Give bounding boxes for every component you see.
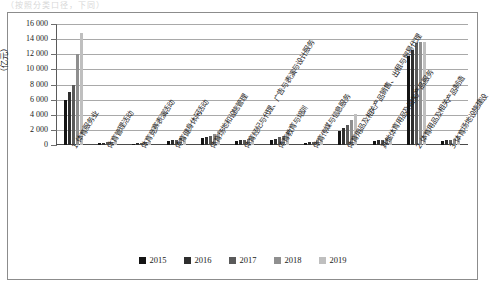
y-axis-tick: [51, 69, 57, 70]
y-axis-tick: [51, 54, 57, 55]
legend-label: 2019: [330, 256, 347, 265]
bar[interactable]: [270, 140, 273, 145]
legend-swatch: [319, 257, 326, 264]
bar[interactable]: [132, 144, 135, 146]
y-axis-tick: [51, 130, 57, 131]
legend-swatch: [274, 257, 281, 264]
chart-legend: 20152016201720182019: [0, 256, 485, 265]
legend-swatch: [139, 257, 146, 264]
bar[interactable]: [98, 143, 101, 145]
x-axis-labels: 1 体育服务业体育管理活动体育竞赛表演活动体育健身休闲活动体育场地和设施管理体育…: [56, 146, 468, 246]
bar[interactable]: [68, 92, 71, 145]
legend-item[interactable]: 2018: [274, 256, 302, 265]
legend-item[interactable]: 2017: [229, 256, 257, 265]
bar[interactable]: [441, 141, 444, 145]
y-axis-tick-label: 8 000: [0, 81, 48, 89]
y-axis-tick-label: 14 000: [0, 35, 48, 43]
bar[interactable]: [72, 85, 75, 146]
legend-item[interactable]: 2019: [319, 256, 347, 265]
legend-item[interactable]: 2015: [139, 256, 167, 265]
bar[interactable]: [373, 141, 376, 145]
y-axis-tick: [51, 100, 57, 101]
y-axis-tick-label: 4 000: [0, 111, 48, 119]
legend-swatch: [229, 257, 236, 264]
y-axis-tick-label: 2 000: [0, 126, 48, 134]
bar[interactable]: [342, 128, 345, 145]
bar[interactable]: [205, 137, 208, 145]
y-axis-tick-label: 6 000: [0, 96, 48, 104]
y-axis-tick: [51, 24, 57, 25]
legend-label: 2018: [285, 256, 302, 265]
bar[interactable]: [338, 131, 341, 145]
bar[interactable]: [235, 141, 238, 145]
y-axis-tick: [51, 85, 57, 86]
cut-off-header-text: （按照分类口径，下同）: [0, 0, 485, 11]
y-axis-title: （亿元）: [0, 44, 9, 76]
y-axis-tick-label: 16 000: [0, 20, 48, 28]
legend-label: 2015: [150, 256, 167, 265]
legend-swatch: [184, 257, 191, 264]
bar[interactable]: [201, 138, 204, 145]
legend-label: 2016: [195, 256, 212, 265]
legend-item[interactable]: 2016: [184, 256, 212, 265]
bar[interactable]: [64, 100, 67, 145]
y-axis-tick-label: 0: [0, 141, 48, 149]
bar[interactable]: [167, 141, 170, 145]
y-axis-tick: [51, 145, 57, 146]
legend-label: 2017: [240, 256, 257, 265]
y-axis-tick: [51, 39, 57, 40]
y-axis-tick: [51, 115, 57, 116]
bar[interactable]: [304, 143, 307, 145]
